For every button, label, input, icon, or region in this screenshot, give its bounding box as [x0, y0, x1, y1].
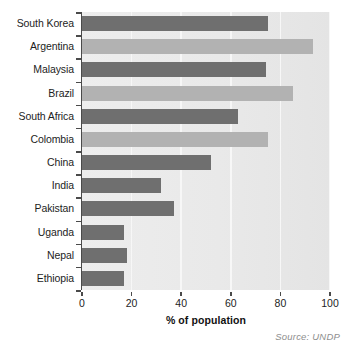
category-tick — [76, 128, 81, 130]
x-tick-mark-20 — [131, 292, 133, 296]
category-tick — [76, 35, 81, 37]
bar-south-africa — [82, 109, 238, 124]
x-axis-title: % of population — [82, 314, 330, 326]
category-label-brazil: Brazil — [0, 88, 74, 99]
x-tick-label-40: 40 — [161, 297, 201, 309]
category-tick — [76, 174, 81, 176]
category-axis: South KoreaArgentinaMalaysiaBrazilSouth … — [0, 12, 78, 290]
x-tick-label-80: 80 — [260, 297, 300, 309]
bar-ethiopia — [82, 271, 124, 286]
bar-chart-figure: South KoreaArgentinaMalaysiaBrazilSouth … — [0, 0, 347, 351]
bar-uganda — [82, 225, 124, 240]
x-tick-mark-100 — [329, 292, 331, 296]
x-tick-mark-40 — [180, 292, 182, 296]
category-tick — [76, 151, 81, 153]
source-note: Source: UNDP — [275, 331, 340, 342]
category-label-pakistan: Pakistan — [0, 203, 74, 214]
category-tick — [76, 82, 81, 84]
category-tick — [76, 197, 81, 199]
x-tick-label-60: 60 — [211, 297, 251, 309]
category-label-malaysia: Malaysia — [0, 64, 74, 75]
category-label-south-korea: South Korea — [0, 18, 74, 29]
plot-area — [82, 12, 330, 290]
category-tick — [76, 221, 81, 223]
bar-china — [82, 155, 211, 170]
bar-india — [82, 178, 161, 193]
category-label-india: India — [0, 180, 74, 191]
x-tick-label-20: 20 — [112, 297, 152, 309]
category-label-argentina: Argentina — [0, 41, 74, 52]
bar-argentina — [82, 39, 313, 54]
bar-pakistan — [82, 201, 174, 216]
category-label-south-africa: South Africa — [0, 111, 74, 122]
bar-malaysia — [82, 62, 266, 77]
x-tick-mark-80 — [280, 292, 282, 296]
x-tick-mark-60 — [230, 292, 232, 296]
bar-colombia — [82, 132, 268, 147]
category-tick — [76, 105, 81, 107]
category-label-ethiopia: Ethiopia — [0, 273, 74, 284]
bar-nepal — [82, 248, 127, 263]
x-tick-label-100: 100 — [310, 297, 347, 309]
x-tick-label-0: 0 — [62, 297, 102, 309]
x-tick-mark-0 — [81, 292, 83, 296]
category-label-china: China — [0, 157, 74, 168]
category-label-colombia: Colombia — [0, 134, 74, 145]
category-label-nepal: Nepal — [0, 250, 74, 261]
category-tick — [76, 244, 81, 246]
value-axis-labels: 020406080100 — [0, 292, 347, 312]
category-tick — [76, 58, 81, 60]
bar-south-korea — [82, 16, 268, 31]
category-tick — [76, 12, 81, 14]
gridline-100 — [329, 12, 330, 290]
bar-brazil — [82, 86, 293, 101]
category-tick — [76, 267, 81, 269]
category-label-uganda: Uganda — [0, 227, 74, 238]
